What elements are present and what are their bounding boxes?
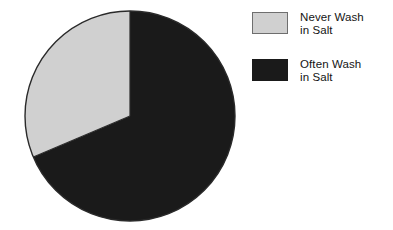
legend-item-never-wash: Never Wash in Salt bbox=[252, 11, 393, 36]
chart-legend: Never Wash in Salt Often Wash in Salt bbox=[252, 11, 393, 105]
legend-label-often-wash: Often Wash in Salt bbox=[300, 58, 361, 83]
often-wash-swatch-icon bbox=[252, 59, 288, 81]
legend-label-line2: in Salt bbox=[300, 71, 361, 84]
legend-item-often-wash: Often Wash in Salt bbox=[252, 58, 393, 83]
legend-label-line1: Often Wash bbox=[300, 58, 361, 70]
pie-plot-area bbox=[0, 0, 245, 230]
legend-label-line2: in Salt bbox=[300, 24, 364, 37]
pie-chart-figure: Never Wash in Salt Often Wash in Salt bbox=[0, 0, 393, 230]
legend-label-never-wash: Never Wash in Salt bbox=[300, 11, 364, 36]
legend-label-line1: Never Wash bbox=[300, 11, 364, 23]
never-wash-swatch-icon bbox=[252, 12, 288, 34]
pie-svg bbox=[0, 0, 245, 230]
